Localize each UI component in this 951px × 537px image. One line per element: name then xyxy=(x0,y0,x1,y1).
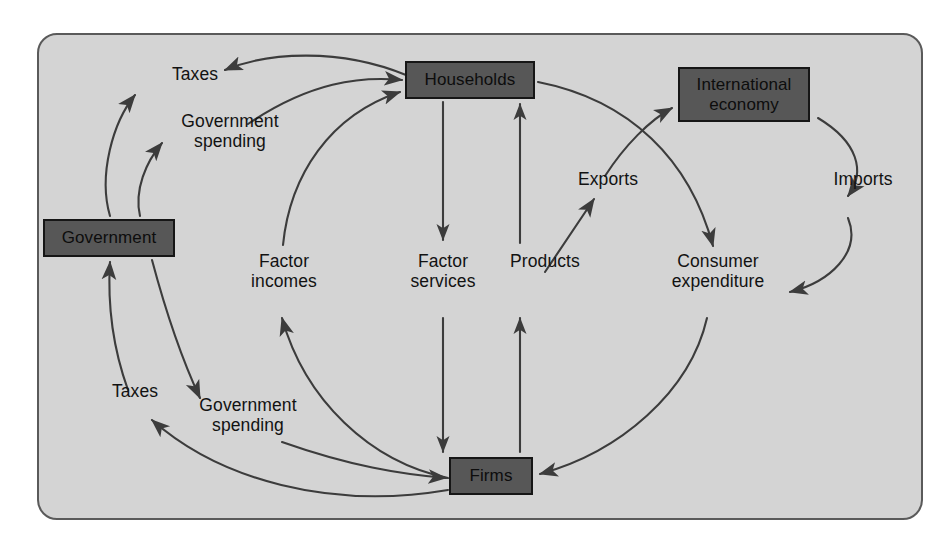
arrow-factor-incomes-to-households xyxy=(283,92,400,245)
flow-label-taxes-bottom: Taxes xyxy=(95,382,175,402)
node-government[interactable]: Government xyxy=(43,219,175,257)
arrow-households-to-taxes-top xyxy=(225,56,406,75)
flow-label-imports: Imports xyxy=(823,170,903,190)
node-international-economy[interactable]: International economy xyxy=(678,67,810,122)
node-households[interactable]: Households xyxy=(405,61,535,99)
arrow-taxes-bottom-to-government xyxy=(109,262,128,390)
node-households-label: Households xyxy=(419,70,522,90)
flow-label-products: Products xyxy=(497,252,593,272)
diagram-canvas: Households International economy Governm… xyxy=(0,0,951,537)
flow-label-government-spending-bottom: Government spending xyxy=(178,396,318,435)
arrow-spending-bottom-to-firms xyxy=(282,442,446,478)
flow-label-exports: Exports xyxy=(568,170,648,190)
flow-label-government-spending-top: Government spending xyxy=(160,112,300,151)
arrow-government-to-spending-label xyxy=(138,143,162,216)
flow-label-factor-services: Factor services xyxy=(391,252,495,291)
arrow-imports-to-consumer-expenditure xyxy=(790,218,851,292)
node-firms-label: Firms xyxy=(464,466,519,486)
arrow-exports-to-international xyxy=(605,108,672,176)
node-international-economy-label: International economy xyxy=(691,75,798,114)
arrow-government-to-spending-bottom xyxy=(152,260,200,398)
node-government-label: Government xyxy=(56,228,163,248)
flow-label-taxes-top: Taxes xyxy=(155,65,235,85)
arrow-government-to-taxes-top xyxy=(106,95,135,216)
node-firms[interactable]: Firms xyxy=(449,457,533,495)
flow-label-factor-incomes: Factor incomes xyxy=(228,252,340,291)
flow-label-consumer-expenditure: Consumer expenditure xyxy=(652,252,784,291)
arrow-consumer-expenditure-to-firms xyxy=(540,318,707,474)
